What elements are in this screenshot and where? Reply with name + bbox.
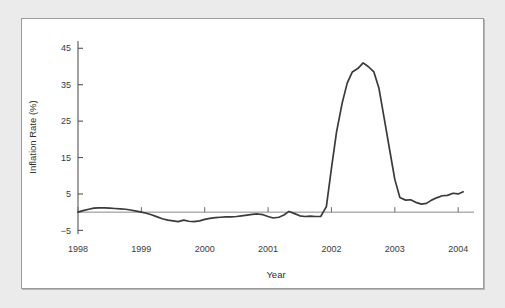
y-tick-label: −5 — [61, 226, 71, 236]
inflation-rate-series-line — [78, 63, 463, 222]
x-tick-label: 2002 — [321, 244, 341, 254]
y-tick-label: 15 — [61, 153, 71, 163]
y-tick-label: 45 — [61, 43, 71, 53]
screenshot-page: −5515253545 1998199920002001200220032004… — [0, 0, 505, 308]
y-axis-title: Inflation Rate (%) — [27, 100, 38, 173]
x-tick-label: 2000 — [195, 244, 215, 254]
x-tick-label: 1999 — [131, 244, 151, 254]
y-tick-labels: −5515253545 — [61, 43, 71, 235]
inflation-rate-line-chart: −5515253545 1998199920002001200220032004… — [22, 19, 483, 288]
x-tick-label: 2004 — [448, 244, 468, 254]
x-tick-label: 1998 — [68, 244, 88, 254]
y-tick-label: 25 — [61, 116, 71, 126]
y-tick-marks — [78, 48, 83, 230]
y-tick-label: 5 — [66, 189, 71, 199]
x-tick-labels: 1998199920002001200220032004 — [68, 244, 468, 254]
x-axis-title: Year — [266, 269, 285, 280]
chart-figure-frame: −5515253545 1998199920002001200220032004… — [21, 18, 484, 289]
y-tick-label: 35 — [61, 80, 71, 90]
x-tick-label: 2001 — [258, 244, 278, 254]
x-tick-label: 2003 — [385, 244, 405, 254]
